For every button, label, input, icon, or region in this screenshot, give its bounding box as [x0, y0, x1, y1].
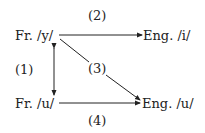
arrow-3a [60, 39, 89, 62]
edge-label-4: (4) [88, 114, 106, 128]
arrow-3b [106, 75, 140, 100]
node-eng-u: Eng. /u/ [142, 97, 194, 111]
node-fr-u: Fr. /u/ [15, 97, 54, 111]
edge-label-2: (2) [88, 9, 106, 23]
node-eng-i: Eng. /i/ [143, 29, 190, 43]
edge-label-1: (1) [15, 63, 33, 77]
node-fr-y: Fr. /y/ [15, 29, 53, 43]
edge-label-3: (3) [88, 62, 106, 76]
